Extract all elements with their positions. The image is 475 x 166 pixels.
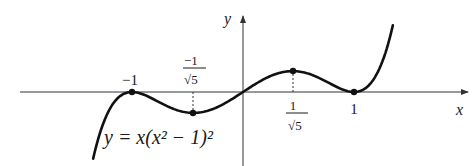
y-axis-label: y (222, 10, 232, 28)
point-local-min (190, 110, 196, 116)
tick-label-neg-inv-sqrt5-denominator: √5 (184, 72, 198, 87)
function-graph: y x −1 −1 √5 1 √5 1 y = x(x² − 1)² (0, 0, 475, 166)
point-neg-one (129, 89, 135, 95)
x-axis-label: x (455, 101, 463, 118)
tick-label-inv-sqrt5-denominator: √5 (288, 118, 302, 133)
tick-label-inv-sqrt5-numerator: 1 (290, 98, 297, 113)
tick-label-one: 1 (350, 101, 358, 117)
equation-label: y = x(x² − 1)² (102, 126, 214, 149)
tick-label-neg-inv-sqrt5-numerator: −1 (184, 53, 198, 68)
point-local-max (290, 68, 296, 74)
point-one (351, 89, 357, 95)
tick-label-neg-one: −1 (122, 72, 138, 88)
